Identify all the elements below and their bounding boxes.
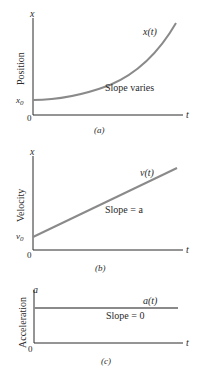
- panel-position: x t 0 x0 x(t) Slope varies Position (a): [15, 8, 189, 135]
- intercept-label: v0: [16, 231, 24, 243]
- y-axis-var: a: [33, 284, 38, 295]
- y-axis-label: Acceleration: [17, 297, 28, 348]
- y-axis-var: x: [29, 146, 35, 157]
- panel-acceleration: a t 0 a(t) Slope = 0 Acceleration (c): [17, 284, 189, 366]
- intercept-label: x0: [15, 95, 24, 107]
- x-axis-var: t: [186, 337, 189, 348]
- curve-label: a(t): [143, 295, 158, 307]
- kinematics-graphs: x t 0 x0 x(t) Slope varies Position (a) …: [0, 0, 197, 377]
- x-axis-var: t: [186, 244, 189, 255]
- y-axis-label: Position: [15, 52, 26, 85]
- panel-caption: (b): [95, 263, 106, 273]
- velocity-line: [33, 168, 177, 237]
- curve-label: v(t): [140, 167, 155, 179]
- panel-caption: (a): [94, 125, 105, 135]
- panel-velocity: x t 0 v0 v(t) Slope = a Velocity (b): [15, 146, 189, 273]
- y-axis-var: x: [29, 8, 35, 19]
- y-axis-label: Velocity: [15, 189, 26, 222]
- annotation: Slope = a: [105, 204, 143, 215]
- origin-label: 0: [27, 113, 32, 123]
- panel-caption: (c): [101, 356, 111, 366]
- origin-label: 0: [28, 344, 33, 354]
- annotation: Slope varies: [105, 82, 154, 93]
- curve-label: x(t): [142, 26, 158, 38]
- origin-label: 0: [27, 250, 32, 260]
- annotation: Slope = 0: [106, 310, 144, 321]
- x-axis-var: t: [186, 109, 189, 120]
